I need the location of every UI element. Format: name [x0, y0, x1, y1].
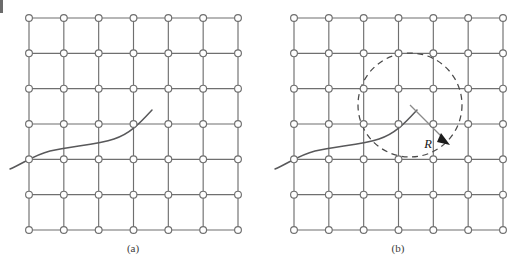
grid-node — [130, 227, 137, 234]
scan-artifact — [0, 0, 3, 13]
grid-node — [130, 156, 137, 163]
grid-node — [60, 15, 67, 22]
grid-node — [500, 15, 507, 22]
grid-node — [165, 227, 172, 234]
grid-node — [235, 85, 242, 92]
grid-node — [235, 50, 242, 57]
grid-node — [291, 50, 298, 57]
grid-node — [395, 227, 402, 234]
grid-node — [95, 15, 102, 22]
grid-node — [130, 121, 137, 128]
grid-node — [360, 156, 367, 163]
grid-node — [130, 85, 137, 92]
grid-node — [26, 121, 33, 128]
grid-node — [291, 121, 298, 128]
grid-node — [165, 156, 172, 163]
grid-node — [291, 191, 298, 198]
grid-node — [95, 121, 102, 128]
panel-a: (a) — [10, 15, 241, 255]
figure-canvas: (a) — [0, 0, 525, 268]
grid-node — [291, 227, 298, 234]
grid-node — [325, 156, 332, 163]
grid-node — [430, 191, 437, 198]
grid-node — [500, 85, 507, 92]
grid-node — [395, 50, 402, 57]
grid-node — [430, 227, 437, 234]
grid-node — [325, 85, 332, 92]
grid-node — [165, 121, 172, 128]
grid-node — [395, 85, 402, 92]
grid-node — [465, 227, 472, 234]
grid-node — [200, 121, 207, 128]
grid-node — [165, 15, 172, 22]
grid-node — [200, 15, 207, 22]
grid-node — [200, 156, 207, 163]
grid-node — [95, 227, 102, 234]
grid-node — [430, 121, 437, 128]
panel-b-caption: (b) — [392, 242, 405, 255]
grid-node — [360, 227, 367, 234]
grid-node — [430, 50, 437, 57]
grid-node — [200, 50, 207, 57]
panel-b: R — [275, 15, 506, 255]
grid-node — [130, 191, 137, 198]
grid-node — [395, 191, 402, 198]
grid-node — [291, 156, 298, 163]
grid-node — [165, 191, 172, 198]
grid-node — [95, 50, 102, 57]
grid-node — [395, 156, 402, 163]
grid-node — [360, 121, 367, 128]
grid-node — [130, 15, 137, 22]
grid-node — [395, 15, 402, 22]
grid-node — [500, 227, 507, 234]
figure-root: (a) — [0, 0, 525, 268]
grid-node — [465, 85, 472, 92]
grid-node — [235, 156, 242, 163]
grid-node — [60, 85, 67, 92]
grid-node — [26, 85, 33, 92]
grid-node — [360, 191, 367, 198]
grid-node — [200, 191, 207, 198]
grid-node — [60, 156, 67, 163]
radius-arrowhead-icon — [437, 133, 450, 145]
grid-node — [500, 50, 507, 57]
grid-node — [130, 50, 137, 57]
grid-node — [325, 50, 332, 57]
grid-node — [465, 50, 472, 57]
grid-node — [360, 50, 367, 57]
grid-node — [500, 156, 507, 163]
grid-node — [465, 191, 472, 198]
grid-node — [200, 227, 207, 234]
grid-node — [325, 15, 332, 22]
grid-node — [235, 191, 242, 198]
grid-node — [165, 50, 172, 57]
grid-node — [26, 50, 33, 57]
grid-node — [26, 191, 33, 198]
panel-a-caption: (a) — [127, 242, 140, 255]
grid-node — [95, 191, 102, 198]
grid-node — [60, 50, 67, 57]
grid-node — [500, 191, 507, 198]
grid-node — [430, 15, 437, 22]
grid-node — [26, 227, 33, 234]
grid-node — [235, 15, 242, 22]
grid-node — [26, 156, 33, 163]
grid-node — [325, 227, 332, 234]
grid-node — [465, 15, 472, 22]
radius-label: R — [423, 137, 432, 151]
grid-node — [325, 121, 332, 128]
grid-node — [60, 121, 67, 128]
grid-node — [465, 156, 472, 163]
grid-node — [360, 15, 367, 22]
grid-node — [235, 227, 242, 234]
grid-node — [430, 85, 437, 92]
grid-node — [235, 121, 242, 128]
grid-node — [395, 121, 402, 128]
grid-node — [60, 191, 67, 198]
grid-node — [465, 121, 472, 128]
grid-node — [95, 156, 102, 163]
grid-node — [291, 85, 298, 92]
grid-node — [325, 191, 332, 198]
grid-node — [60, 227, 67, 234]
grid-node — [291, 15, 298, 22]
